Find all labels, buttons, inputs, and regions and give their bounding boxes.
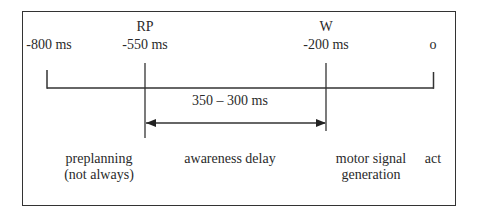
marker-start-time: -800 ms [26, 37, 72, 53]
phase-motor-signal: motor signal generation [336, 151, 406, 183]
phase-preplanning-line1: preplanning [64, 151, 134, 167]
interval-label: 350 – 300 ms [192, 93, 268, 109]
marker-w-name: W [319, 19, 332, 35]
marker-rp-name: RP [136, 19, 153, 35]
phase-motor-signal-line1: motor signal [336, 151, 406, 167]
marker-act-time: o [430, 37, 437, 53]
phase-act-line1: act [425, 151, 441, 167]
marker-w-time: -200 ms [303, 37, 349, 53]
phase-preplanning: preplanning (not always) [64, 151, 134, 183]
phase-awareness-delay: awareness delay [184, 151, 275, 167]
phase-act: act [425, 151, 441, 167]
phase-awareness-delay-line1: awareness delay [184, 151, 275, 167]
phase-motor-signal-line2: generation [336, 167, 406, 183]
marker-rp-time: -550 ms [122, 37, 168, 53]
timeline-graphic [0, 0, 482, 223]
phase-preplanning-line2: (not always) [64, 167, 134, 183]
arrowhead-left-icon [146, 119, 156, 127]
